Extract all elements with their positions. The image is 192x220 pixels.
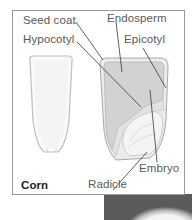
label-epicotyl: Epicotyl [124, 33, 165, 45]
label-endosperm: Endosperm [107, 12, 167, 24]
figure-title: Corn [21, 179, 48, 191]
label-seed-coat: Seed coat [23, 14, 76, 26]
label-hypocotyl: Hypocotyl [23, 33, 74, 45]
label-embryo: Embryo [139, 162, 179, 174]
label-radicle: Radicle [88, 178, 127, 190]
whole-kernel-icon [30, 56, 72, 152]
